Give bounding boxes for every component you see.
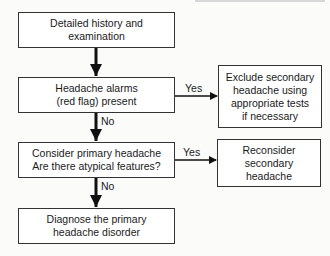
node-exclude: Exclude secondary headache using appropr… <box>218 65 322 128</box>
node-alarms: Headache alarms (red flag) present <box>18 77 175 113</box>
node-reconsider: Reconsider secondary headache <box>217 139 321 187</box>
node-primary-text: Consider primary headache Are there atyp… <box>32 147 161 173</box>
node-history-text: Detailed history and examination <box>50 17 143 43</box>
node-reconsider-text: Reconsider secondary headache <box>242 144 295 183</box>
node-exclude-text: Exclude secondary headache using appropr… <box>226 71 315 123</box>
node-diagnose-text: Diagnose the primary headache disorder <box>47 213 147 239</box>
edge-label-yes-2: Yes <box>183 146 200 158</box>
edge-label-no-2: No <box>101 180 114 192</box>
node-alarms-text: Headache alarms (red flag) present <box>55 82 137 108</box>
node-primary: Consider primary headache Are there atyp… <box>18 142 175 178</box>
node-diagnose: Diagnose the primary headache disorder <box>18 208 175 244</box>
edge-label-no-1: No <box>101 115 114 127</box>
node-history: Detailed history and examination <box>18 12 175 48</box>
edge-label-yes-1: Yes <box>185 82 202 94</box>
